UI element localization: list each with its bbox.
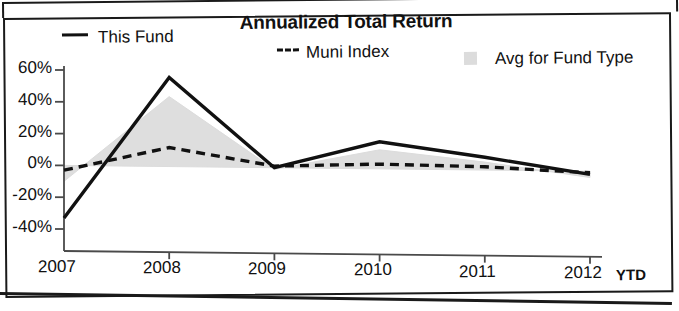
x-axis-ytd-label: YTD [616, 266, 646, 283]
x-axis-tick-label: 2009 [248, 259, 286, 279]
annualized-total-return-chart: Annualized Total Return This Fund Muni I… [0, 0, 679, 311]
x-axis-tick-label: 2012 [564, 263, 602, 283]
x-axis-labels: 200720082009201020112012YTD [0, 0, 679, 311]
x-axis-tick-label: 2007 [38, 257, 76, 277]
x-axis-tick-label: 2010 [353, 260, 391, 280]
x-axis-tick-label: 2011 [459, 261, 496, 281]
x-axis-tick-label: 2008 [143, 258, 181, 278]
